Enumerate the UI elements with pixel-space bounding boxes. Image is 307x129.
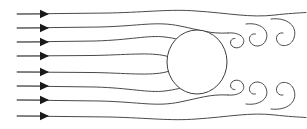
streamline-flow-figure (0, 0, 307, 129)
flow-diagram-container (0, 0, 307, 129)
figure-background (0, 0, 307, 129)
cylinder-body (167, 30, 227, 94)
